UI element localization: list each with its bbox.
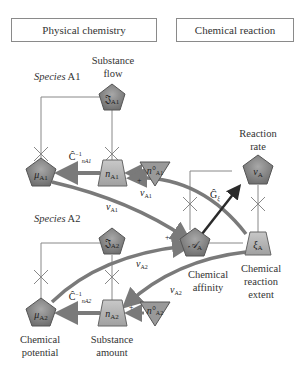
svg-text:+: +: [137, 176, 142, 185]
svg-text:Ĉ−1nA2: Ĉ−1nA2: [69, 291, 92, 304]
label-substance-amount: Substance amount: [86, 333, 138, 359]
node-mu-A2: μA2: [26, 298, 56, 326]
arrow-affinity-to-rate: [202, 188, 238, 234]
svg-text:+: +: [165, 233, 170, 242]
node-xi-A: ξA: [245, 232, 271, 255]
node-n-A2: nA2: [98, 300, 127, 326]
node-n0-A1: n°A1: [140, 162, 170, 186]
node-J-A1: 𝔍A1: [99, 84, 125, 110]
arrow-mu-a1-to-affinity: [52, 182, 186, 238]
label-species-a1: Species A1: [34, 70, 104, 83]
node-n-A1: nA1: [98, 160, 127, 186]
svg-text:νA2: νA2: [136, 258, 148, 270]
label-chemical-affinity: Chemical affinity: [186, 268, 230, 294]
svg-text:νA2: νA2: [170, 284, 182, 296]
node-rate-vA: νA: [243, 155, 273, 184]
label-chemical-reaction-extent: Chemical reaction extent: [236, 262, 286, 301]
label-chemical-potential: Chemical potential: [16, 333, 64, 359]
svg-text:νA1: νA1: [140, 187, 152, 199]
node-n0-A2: n°A2: [140, 302, 170, 326]
svg-text:Ĉ−1nA1: Ĉ−1nA1: [69, 151, 92, 164]
species-a1-name: A1: [68, 71, 81, 82]
diagram-canvas: 𝔍A1 μA1 𝔍A2 μA2 𝒜A νA nA1 nA2 ξA n°A1 n: [0, 0, 305, 380]
node-J-A2: 𝔍A2: [99, 228, 125, 254]
species-a2-name: A2: [68, 213, 81, 224]
node-affinity-A: 𝒜A: [180, 228, 210, 256]
node-mu-A1: μA1: [26, 158, 56, 186]
label-reaction-rate: Reaction rate: [232, 127, 284, 153]
species-a2-italic: Species: [34, 213, 66, 224]
label-species-a2: Species A2: [34, 212, 104, 225]
svg-text:+: +: [129, 303, 134, 312]
species-a1-italic: Species: [34, 71, 66, 82]
